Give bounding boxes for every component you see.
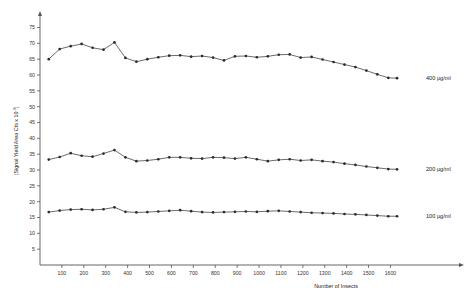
data-point	[332, 212, 335, 215]
data-point	[80, 43, 83, 46]
data-point	[157, 56, 160, 59]
x-tick-label: 300	[101, 270, 110, 276]
data-point	[310, 56, 313, 59]
data-point	[223, 59, 226, 62]
data-point	[91, 155, 94, 158]
y-tick-label: 20	[29, 199, 35, 205]
data-point	[321, 212, 324, 215]
data-point	[113, 206, 116, 209]
x-tick-label: 1500	[363, 270, 375, 276]
data-point	[299, 211, 302, 214]
y-tick-label: 35	[29, 151, 35, 157]
data-point	[343, 162, 346, 165]
x-tick-label: 1100	[275, 270, 286, 276]
data-point	[310, 211, 313, 214]
signal-yield-line-chart: 51015202530354045505560657075 1002003004…	[0, 0, 472, 298]
series-100-g-ml	[47, 206, 398, 218]
data-point	[277, 210, 280, 213]
data-point	[201, 55, 204, 58]
data-point	[396, 77, 399, 80]
x-tick-label: 400	[123, 270, 132, 276]
data-point	[135, 211, 138, 214]
data-point	[80, 208, 83, 211]
data-point	[157, 210, 160, 213]
data-point	[332, 161, 335, 164]
data-point	[102, 208, 105, 211]
x-axis-title: Number of Insects	[314, 283, 358, 289]
data-point	[234, 55, 237, 58]
data-point	[343, 213, 346, 216]
data-point	[310, 159, 313, 162]
data-point	[256, 158, 259, 161]
y-axis-title: [Signal Yield Area Cts x 10-3]	[12, 106, 19, 175]
x-tick-label: 1000	[253, 270, 265, 276]
y-tick-label: 60	[29, 72, 35, 78]
y-tick-label: 45	[29, 119, 35, 125]
data-point	[288, 158, 291, 161]
y-tick-label: 40	[29, 135, 35, 141]
x-tick-label: 1300	[319, 270, 331, 276]
data-point	[135, 160, 138, 163]
data-point	[396, 215, 399, 218]
data-point	[365, 69, 368, 72]
data-point	[376, 166, 379, 169]
data-point	[179, 54, 182, 57]
data-point	[354, 66, 357, 69]
y-tick-label: 75	[29, 24, 35, 30]
data-point	[396, 168, 399, 171]
data-point	[179, 209, 182, 212]
data-point	[190, 55, 193, 58]
data-point	[146, 211, 149, 214]
data-point	[47, 211, 50, 214]
data-point	[288, 210, 291, 213]
data-point	[277, 53, 280, 56]
x-axis-ticks: 1002003004005006007008009001000110012001…	[58, 265, 397, 276]
y-tick-label: 5	[32, 246, 35, 252]
data-point	[69, 45, 72, 48]
x-tick-label: 1200	[297, 270, 309, 276]
data-point	[365, 214, 368, 217]
data-point	[47, 58, 50, 61]
data-point	[256, 56, 259, 59]
x-tick-label: 200	[79, 270, 88, 276]
y-tick-label: 55	[29, 88, 35, 94]
series-label-200-g-ml: 200 µg/ml	[426, 166, 451, 172]
data-point	[168, 54, 171, 57]
chart-container: 51015202530354045505560657075 1002003004…	[0, 0, 472, 298]
data-point	[212, 211, 215, 214]
data-point	[245, 210, 248, 213]
x-tick-label: 700	[189, 270, 198, 276]
data-point	[376, 73, 379, 76]
data-point	[376, 214, 379, 217]
data-series	[47, 41, 398, 218]
data-point	[387, 215, 390, 218]
series-label-100-g-ml: 100 µg/ml	[426, 213, 451, 219]
data-point	[135, 60, 138, 63]
y-tick-label: 65	[29, 56, 35, 62]
data-point	[58, 48, 61, 51]
data-point	[223, 211, 226, 214]
data-point	[113, 41, 116, 44]
data-point	[190, 210, 193, 213]
data-point	[157, 158, 160, 161]
data-point	[124, 210, 127, 213]
data-point	[69, 152, 72, 155]
data-point	[146, 58, 149, 61]
data-point	[201, 211, 204, 214]
x-tick-label: 1400	[341, 270, 353, 276]
x-axis-arrow	[459, 263, 464, 267]
y-tick-label: 30	[29, 167, 35, 173]
data-point	[387, 168, 390, 171]
data-point	[69, 208, 72, 211]
data-point	[266, 55, 269, 58]
data-point	[256, 210, 259, 213]
data-point	[124, 57, 127, 60]
data-point	[299, 159, 302, 162]
series-labels: 400 µg/ml200 µg/ml100 µg/ml	[426, 75, 451, 219]
data-point	[332, 61, 335, 64]
x-tick-label: 600	[167, 270, 176, 276]
series-label-400-g-ml: 400 µg/ml	[426, 75, 451, 81]
series-200-g-ml	[47, 149, 398, 171]
x-tick-label: 500	[145, 270, 154, 276]
data-point	[321, 160, 324, 163]
